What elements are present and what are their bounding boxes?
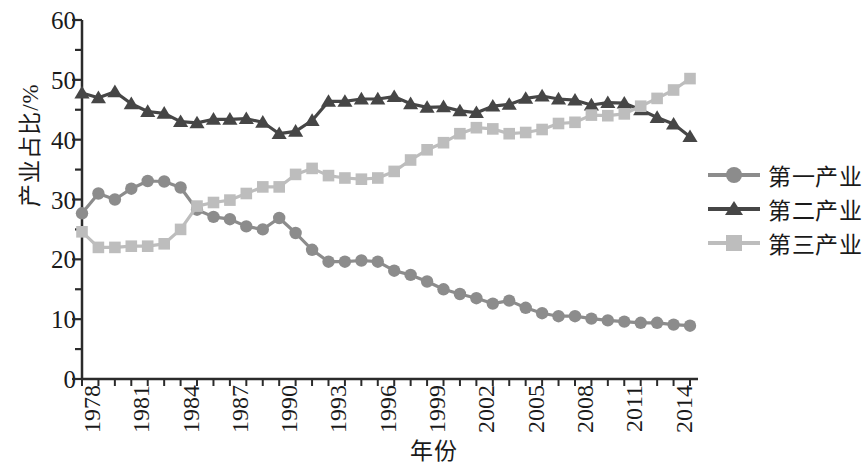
- data-point: [142, 175, 154, 187]
- data-point: [536, 124, 548, 136]
- legend-item-2[interactable]: 第三产业: [706, 226, 866, 260]
- legend-swatch-triangle-icon: [706, 198, 762, 220]
- data-point: [125, 183, 137, 195]
- data-point: [273, 181, 285, 193]
- data-series-2: [76, 73, 696, 253]
- data-point: [536, 307, 548, 319]
- data-point: [387, 89, 402, 102]
- data-point: [306, 163, 318, 175]
- legend-item-1[interactable]: 第二产业: [706, 192, 866, 226]
- data-point: [668, 84, 680, 96]
- data-point: [158, 175, 170, 187]
- data-point: [569, 310, 581, 322]
- data-point: [174, 181, 186, 193]
- data-point: [438, 137, 450, 149]
- legend-swatch-circle-icon: [706, 164, 762, 186]
- legend-label-0: 第一产业: [768, 158, 862, 192]
- data-point: [372, 172, 384, 184]
- chart-figure: 产业占比/% 年份 0102030405060 1978198119841987…: [0, 0, 867, 466]
- data-point: [372, 256, 384, 268]
- data-point: [224, 194, 236, 206]
- data-point: [257, 223, 269, 235]
- data-point: [552, 310, 564, 322]
- data-point: [619, 108, 631, 120]
- data-point: [487, 297, 499, 309]
- data-point: [470, 292, 482, 304]
- data-point: [684, 320, 696, 332]
- data-point: [520, 127, 532, 139]
- legend-label-2: 第三产业: [768, 226, 862, 260]
- data-point: [107, 85, 122, 98]
- data-point: [535, 89, 550, 102]
- data-point: [684, 73, 696, 85]
- data-point: [207, 211, 219, 223]
- data-point: [290, 169, 302, 181]
- data-point: [651, 93, 663, 105]
- data-point: [635, 100, 647, 112]
- legend-swatch-square-icon: [706, 232, 762, 254]
- data-point: [388, 166, 400, 178]
- data-point: [421, 144, 433, 156]
- data-point: [520, 302, 532, 314]
- data-point: [404, 269, 416, 281]
- data-point: [339, 172, 351, 184]
- data-point: [322, 256, 334, 268]
- data-point: [257, 181, 269, 193]
- data-series-0: [76, 175, 696, 332]
- data-point: [191, 200, 203, 212]
- data-point: [208, 197, 220, 209]
- data-point: [175, 224, 187, 236]
- data-point: [602, 110, 614, 122]
- data-point: [93, 242, 105, 254]
- data-point: [388, 265, 400, 277]
- legend-label-1: 第二产业: [768, 192, 862, 226]
- data-point: [585, 312, 597, 324]
- data-point: [487, 123, 499, 135]
- data-point: [618, 315, 630, 327]
- data-point: [553, 118, 565, 130]
- data-point: [92, 187, 104, 199]
- data-point: [667, 318, 679, 330]
- data-point: [421, 275, 433, 287]
- data-point: [74, 86, 89, 99]
- data-point: [142, 240, 154, 252]
- data-point: [240, 220, 252, 232]
- data-point: [454, 128, 466, 140]
- data-point: [437, 283, 449, 295]
- data-point: [355, 254, 367, 266]
- data-point: [602, 314, 614, 326]
- chart-legend: 第一产业 第二产业 第三产业: [706, 158, 866, 260]
- data-point: [76, 226, 88, 238]
- axis-ticks: [72, 20, 690, 386]
- data-point: [76, 207, 88, 219]
- data-point: [273, 212, 285, 224]
- data-point: [323, 170, 335, 182]
- data-point: [569, 117, 581, 129]
- data-point: [405, 154, 417, 166]
- data-point: [339, 256, 351, 268]
- data-point: [635, 317, 647, 329]
- data-point: [289, 227, 301, 239]
- data-point: [651, 317, 663, 329]
- data-point: [306, 244, 318, 256]
- data-point: [241, 188, 253, 200]
- data-point: [503, 128, 515, 140]
- data-point: [471, 122, 483, 134]
- data-point: [454, 288, 466, 300]
- data-point: [224, 213, 236, 225]
- data-point: [503, 294, 515, 306]
- legend-item-0[interactable]: 第一产业: [706, 158, 866, 192]
- data-point: [586, 109, 598, 121]
- data-point: [158, 238, 170, 250]
- data-point: [109, 242, 121, 254]
- data-point: [356, 173, 368, 185]
- data-point: [126, 240, 138, 252]
- data-point: [109, 193, 121, 205]
